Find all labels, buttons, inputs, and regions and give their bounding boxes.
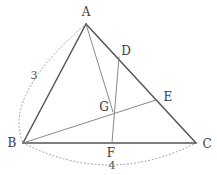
measure-arc-BC-path	[23, 143, 196, 165]
geometry-canvas	[0, 0, 217, 175]
cevian-lines	[23, 24, 156, 143]
geometry-figure: A B C D E F G 3 4	[0, 0, 217, 175]
cevian-AG	[86, 24, 113, 112]
side-AC	[86, 24, 196, 143]
cevian-DF	[112, 57, 119, 143]
triangle-sides	[23, 24, 196, 143]
